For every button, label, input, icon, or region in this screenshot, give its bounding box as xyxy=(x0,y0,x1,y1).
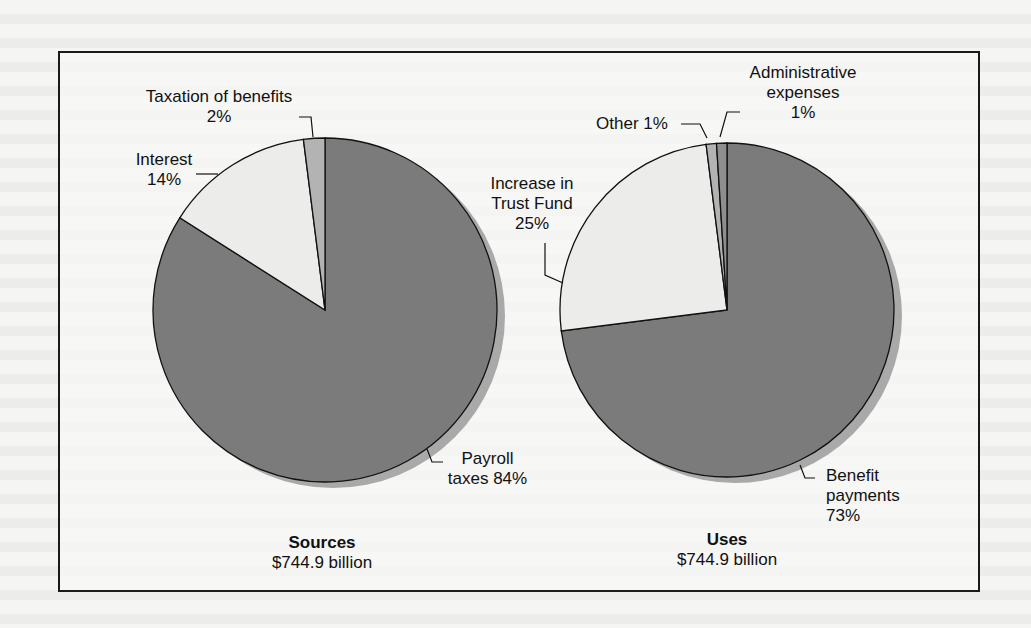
label-taxation-of-benefits: Taxation of benefits 2% xyxy=(128,87,310,127)
label-value: 1% xyxy=(738,103,868,123)
label-increase-in-trust-fund: Increase in Trust Fund 25% xyxy=(478,174,586,234)
label-administrative-expenses: Administrative expenses 1% xyxy=(738,63,868,123)
sources-total: $744.9 billion xyxy=(252,553,392,573)
label-text: Interest xyxy=(124,150,204,170)
label-text: payments xyxy=(826,486,926,506)
label-other: Other 1% xyxy=(586,114,678,134)
label-payroll-taxes: Payroll taxes 84% xyxy=(440,449,535,489)
uses-pie xyxy=(545,112,902,483)
sources-pie xyxy=(153,117,505,488)
label-benefit-payments: Benefit payments 73% xyxy=(826,466,926,526)
label-text: Payroll xyxy=(440,449,535,469)
label-value: taxes 84% xyxy=(440,469,535,489)
label-interest: Interest 14% xyxy=(124,150,204,190)
uses-caption: Uses $744.9 billion xyxy=(657,530,797,570)
uses-total: $744.9 billion xyxy=(657,550,797,570)
label-text: Other 1% xyxy=(586,114,678,134)
uses-title: Uses xyxy=(657,530,797,550)
leader-admin xyxy=(720,112,740,137)
label-value: 73% xyxy=(826,506,926,526)
label-text: Taxation of benefits xyxy=(128,87,310,107)
label-value: 2% xyxy=(128,107,310,127)
label-value: 25% xyxy=(478,214,586,234)
label-text: Increase in xyxy=(478,174,586,194)
label-value: 14% xyxy=(124,170,204,190)
slice-increase-in-trust-fund xyxy=(560,144,727,331)
label-text: Benefit xyxy=(826,466,926,486)
leader-other xyxy=(681,124,707,138)
leader-trust-fund xyxy=(545,243,563,283)
label-text: expenses xyxy=(738,83,868,103)
sources-caption: Sources $744.9 billion xyxy=(252,533,392,573)
sources-title: Sources xyxy=(252,533,392,553)
label-text: Administrative xyxy=(738,63,868,83)
label-text: Trust Fund xyxy=(478,194,586,214)
